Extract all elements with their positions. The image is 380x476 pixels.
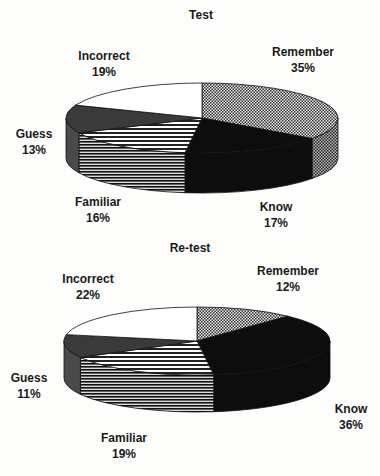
chart-title-retest: Re-test	[140, 241, 240, 255]
label-retest-familiar: Familiar19%	[79, 430, 169, 462]
label-test-familiar: Familiar16%	[53, 194, 143, 226]
retest-pie	[64, 307, 330, 412]
chart-title-test: Test	[151, 8, 251, 22]
label-retest-guess: Guess11%	[0, 370, 74, 402]
label-retest-incorrect: Incorrect22%	[43, 271, 133, 303]
label-retest-know: Know36%	[306, 401, 380, 433]
label-test-know: Know17%	[231, 199, 321, 231]
label-test-guess: Guess13%	[0, 126, 79, 158]
label-test-remember: Remember35%	[258, 44, 348, 76]
label-retest-remember: Remember12%	[243, 263, 333, 295]
label-test-incorrect: Incorrect19%	[59, 48, 149, 80]
test-pie	[66, 83, 338, 193]
slice-top-incorrect	[66, 307, 197, 341]
